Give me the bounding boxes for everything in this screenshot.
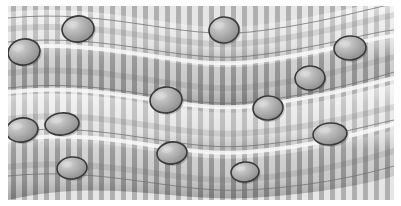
mesh-surface [4,0,394,200]
mesh-particle-figure [0,0,401,206]
visualization-canvas: Deformed woven mesh with embedded spheri… [0,0,401,206]
